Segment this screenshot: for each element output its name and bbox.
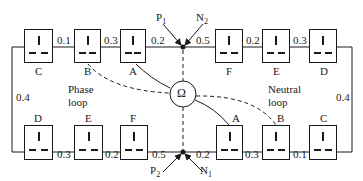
phase-loop-label-line2: loop	[68, 97, 88, 108]
live-pin-icon	[29, 149, 36, 151]
socket-top-c[interactable]	[24, 29, 53, 63]
socket-label: F	[130, 113, 136, 124]
earth-pin-icon	[88, 132, 90, 141]
socket-bottom-a[interactable]	[216, 125, 243, 160]
resistance-value: 0.2	[105, 149, 119, 160]
resistance-value: 0.1	[293, 149, 307, 160]
socket-label: D	[320, 66, 328, 77]
top-junction-dot	[181, 45, 186, 50]
socket-bottom-c[interactable]	[309, 125, 337, 160]
neutral-loop-label-line1: Neutral	[268, 84, 301, 95]
live-pin-icon	[79, 52, 86, 54]
live-pin-icon	[314, 149, 321, 151]
earth-pin-icon	[322, 132, 324, 141]
terminal-p2: P2	[150, 165, 160, 176]
socket-top-e[interactable]	[262, 29, 290, 63]
earth-pin-icon	[229, 132, 231, 141]
socket-label: A	[129, 66, 137, 77]
socket-bottom-b[interactable]	[262, 125, 290, 160]
live-pin-icon	[267, 149, 274, 151]
neutral-pin-icon	[136, 149, 143, 151]
p1-arrow	[163, 24, 181, 45]
socket-label: B	[277, 113, 284, 124]
neutral-loop-label-line2: loop	[268, 97, 288, 108]
socket-top-b[interactable]	[74, 29, 101, 63]
socket-label: E	[273, 66, 280, 77]
neutral-pin-icon	[231, 52, 238, 54]
earth-pin-icon	[87, 36, 89, 45]
socket-bottom-f[interactable]	[120, 125, 148, 160]
neutral-pin-icon	[231, 149, 238, 151]
socket-bottom-e[interactable]	[74, 125, 103, 160]
socket-label: C	[320, 113, 327, 124]
earth-pin-icon	[38, 36, 40, 45]
live-pin-icon	[29, 52, 36, 54]
neutral-pin-icon	[89, 52, 96, 54]
live-pin-icon	[314, 52, 321, 54]
socket-bottom-d[interactable]	[24, 125, 53, 160]
earth-pin-icon	[228, 36, 230, 45]
live-pin-icon	[220, 52, 227, 54]
resistance-value: 0.1	[57, 35, 71, 46]
ohm-symbol: Ω	[177, 88, 186, 99]
resistance-value: 0.2	[196, 149, 210, 160]
resistance-value: 0.3	[293, 35, 307, 46]
live-pin-icon	[79, 149, 86, 151]
neutral-pin-icon	[278, 52, 285, 54]
lead-top-a	[136, 64, 170, 88]
earth-pin-icon	[38, 132, 40, 141]
resistance-value: 0.5	[196, 35, 210, 46]
earth-pin-icon	[275, 132, 277, 141]
bottom-junction-dot	[181, 150, 186, 155]
terminal-p1: P1	[156, 12, 166, 23]
socket-label: B	[84, 66, 91, 77]
neutral-pin-icon	[325, 149, 332, 151]
live-pin-icon	[267, 52, 274, 54]
live-pin-icon	[125, 149, 132, 151]
socket-label: F	[226, 66, 232, 77]
earth-pin-icon	[133, 132, 135, 141]
neutral-pin-icon	[325, 52, 332, 54]
terminal-n1: N1	[200, 165, 212, 176]
neutral-pin-icon	[41, 52, 48, 54]
resistance-value: 0.2	[151, 35, 165, 46]
resistance-value: 0.3	[57, 149, 71, 160]
socket-label: C	[35, 66, 42, 77]
neutral-pin-icon	[278, 149, 285, 151]
neutral-pin-icon	[41, 149, 48, 151]
socket-label: D	[34, 113, 42, 124]
resistance-value: 0.3	[245, 149, 259, 160]
neutral-pin-icon	[91, 149, 98, 151]
resistance-left: 0.4	[16, 92, 30, 103]
earth-pin-icon	[322, 36, 324, 45]
socket-top-f[interactable]	[215, 29, 243, 63]
earth-pin-icon	[275, 36, 277, 45]
resistance-value: 0.2	[246, 35, 260, 46]
socket-label: E	[85, 113, 92, 124]
lead-bottom-a	[195, 100, 229, 125]
live-pin-icon	[221, 149, 228, 151]
earth-pin-icon	[132, 36, 134, 45]
ring-circuit-diagram: Ω C B A F E D 0.1 0.3 0.2 0.5 0.2 0.3 0.…	[0, 0, 363, 181]
neutral-pin-icon	[134, 52, 141, 54]
resistance-value: 0.5	[152, 149, 166, 160]
terminal-n2: N2	[196, 12, 208, 23]
resistance-value: 0.3	[104, 35, 118, 46]
socket-top-d[interactable]	[309, 29, 337, 63]
live-pin-icon	[125, 52, 132, 54]
socket-label: A	[232, 113, 240, 124]
socket-top-a[interactable]	[120, 29, 146, 63]
resistance-right: 0.4	[336, 92, 350, 103]
phase-loop-label-line1: Phase	[68, 84, 94, 95]
